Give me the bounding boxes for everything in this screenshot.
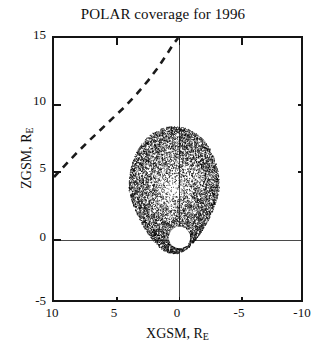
xtick-top-neg5	[241, 38, 243, 45]
xtick-bottom-neg5	[241, 297, 243, 300]
y-axis-label-subscript: E	[24, 127, 35, 133]
ytick-right-10	[298, 104, 301, 106]
xtick-label-5: 5	[94, 305, 134, 321]
ytick-label-neg5: -5	[12, 293, 46, 309]
xtick-bottom-0	[179, 297, 181, 300]
earth-exclusion-circle	[169, 227, 190, 248]
chart-title: POLAR coverage for 1996	[0, 6, 326, 23]
xtick-bottom-5	[116, 297, 118, 300]
xtick-top-5	[116, 38, 118, 45]
ytick-left-5	[54, 171, 61, 173]
ytick-left-0	[54, 239, 61, 241]
ytick-right-5	[298, 171, 301, 173]
xtick-label-neg10: -10	[282, 305, 322, 321]
xtick-label-0: 0	[157, 305, 197, 321]
plot-area	[54, 38, 301, 300]
polar-coverage-figure: POLAR coverage for 1996	[0, 0, 326, 351]
y-axis-label: ZGSM, RE	[19, 78, 35, 238]
xtick-label-neg5: -5	[219, 305, 259, 321]
plot-frame	[52, 36, 303, 302]
y-axis-label-text: ZGSM, R	[19, 134, 34, 189]
x-axis-label-subscript: E	[203, 331, 209, 342]
x-axis-label-text: XGSM, R	[146, 326, 203, 341]
ytick-left-10	[54, 104, 61, 106]
orbit-coverage-scatter	[54, 38, 301, 300]
xtick-top-0	[179, 38, 181, 45]
x-axis-label: XGSM, RE	[52, 326, 303, 342]
ytick-label-15: 15	[12, 27, 46, 43]
